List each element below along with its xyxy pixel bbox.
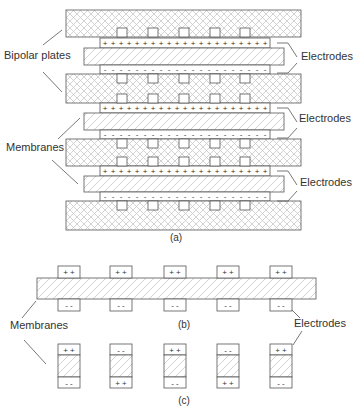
- bipolar-stack-diagram: +++++++++++++++++++++-------------------…: [0, 0, 359, 415]
- charge-sign: +: [231, 104, 236, 113]
- charge-sign: +: [255, 104, 260, 113]
- charge-sign: -: [200, 130, 203, 139]
- charge-sign: + +: [63, 268, 75, 277]
- plate-rib: [179, 139, 189, 148]
- charge-sign: -: [144, 130, 147, 139]
- charge-sign: +: [159, 167, 164, 176]
- charge-sign: -: [216, 65, 219, 74]
- charge-sign: -: [128, 65, 131, 74]
- charge-sign: +: [167, 104, 172, 113]
- plate-rib: [240, 157, 250, 166]
- charge-sign: -: [224, 130, 227, 139]
- charge-sign: +: [231, 167, 236, 176]
- charge-sign: +: [103, 104, 108, 113]
- charge-sign: -: [200, 192, 203, 201]
- charge-sign: +: [207, 39, 212, 48]
- charge-sign: -: [144, 192, 147, 201]
- plate-rib: [148, 201, 158, 210]
- charge-sign: +: [127, 167, 132, 176]
- charge-sign: +: [175, 39, 180, 48]
- charge-sign: +: [239, 167, 244, 176]
- charge-sign: +: [127, 39, 132, 48]
- charge-sign: +: [247, 104, 252, 113]
- plate-rib: [179, 28, 189, 37]
- panel-b-membrane: + +- -+ +- -+ +- -+ +- -+ +- -: [37, 266, 316, 311]
- bracket-pointer: [277, 191, 297, 201]
- charge-sign: - -: [277, 301, 285, 310]
- plate-rib: [240, 28, 250, 37]
- membrane: [217, 355, 239, 377]
- charge-sign: +: [175, 104, 180, 113]
- charge-sign: +: [159, 104, 164, 113]
- charge-sign: +: [183, 104, 188, 113]
- plate-rib: [240, 201, 250, 210]
- charge-sign: + +: [222, 268, 234, 277]
- charge-sign: -: [232, 65, 235, 74]
- charge-sign: +: [151, 39, 156, 48]
- charge-sign: -: [176, 130, 179, 139]
- charge-sign: +: [239, 39, 244, 48]
- plate-rib: [148, 139, 158, 148]
- charge-sign: - -: [171, 379, 179, 388]
- charge-sign: -: [160, 130, 163, 139]
- charge-sign: - -: [171, 301, 179, 310]
- charge-sign: -: [216, 192, 219, 201]
- charge-sign: +: [199, 167, 204, 176]
- plate-rib: [117, 28, 127, 37]
- charge-sign: + +: [275, 268, 287, 277]
- charge-sign: -: [152, 65, 155, 74]
- charge-sign: - -: [65, 301, 73, 310]
- plate-rib: [148, 94, 158, 103]
- charge-sign: +: [135, 39, 140, 48]
- charge-sign: +: [119, 167, 124, 176]
- charge-sign: +: [191, 39, 196, 48]
- charge-sign: +: [135, 104, 140, 113]
- charge-sign: +: [231, 39, 236, 48]
- charge-sign: +: [111, 167, 116, 176]
- charge-sign: - -: [65, 379, 73, 388]
- plate-rib: [210, 157, 220, 166]
- charge-sign: +: [191, 167, 196, 176]
- charge-sign: +: [215, 104, 220, 113]
- charge-sign: - -: [224, 346, 232, 355]
- charge-sign: -: [200, 65, 203, 74]
- charge-sign: -: [192, 65, 195, 74]
- plate-rib: [210, 94, 220, 103]
- charge-sign: -: [192, 192, 195, 201]
- charge-sign: - -: [117, 346, 125, 355]
- charge-sign: -: [232, 130, 235, 139]
- charge-sign: +: [223, 167, 228, 176]
- label-electrodes-2: Electrodes: [299, 112, 351, 124]
- plate-rib: [148, 157, 158, 166]
- charge-sign: -: [264, 65, 267, 74]
- charge-sign: +: [191, 104, 196, 113]
- charge-sign: +: [143, 104, 148, 113]
- charge-sign: -: [120, 130, 123, 139]
- label-membranes-a: Membranes: [6, 141, 65, 153]
- charge-sign: +: [103, 167, 108, 176]
- label-bipolar-plates: Bipolar plates: [4, 49, 71, 61]
- charge-sign: + +: [63, 346, 75, 355]
- membrane: [84, 113, 284, 130]
- charge-sign: -: [136, 65, 139, 74]
- charge-sign: -: [216, 130, 219, 139]
- charge-sign: +: [263, 104, 268, 113]
- charge-sign: -: [184, 192, 187, 201]
- charge-sign: +: [255, 167, 260, 176]
- plate-rib: [240, 94, 250, 103]
- charge-sign: -: [240, 192, 243, 201]
- plate-rib: [240, 74, 250, 83]
- plate-rib: [210, 139, 220, 148]
- charge-sign: -: [152, 192, 155, 201]
- charge-sign: -: [176, 192, 179, 201]
- charge-sign: + +: [222, 379, 234, 388]
- plate-rib: [179, 157, 189, 166]
- pointer-line: [22, 301, 36, 318]
- charge-sign: -: [256, 65, 259, 74]
- charge-sign: -: [184, 65, 187, 74]
- panel-a-stack: +++++++++++++++++++++-------------------…: [66, 10, 301, 230]
- charge-sign: - -: [117, 301, 125, 310]
- plate-rib: [148, 74, 158, 83]
- charge-sign: -: [240, 65, 243, 74]
- charge-sign: -: [224, 65, 227, 74]
